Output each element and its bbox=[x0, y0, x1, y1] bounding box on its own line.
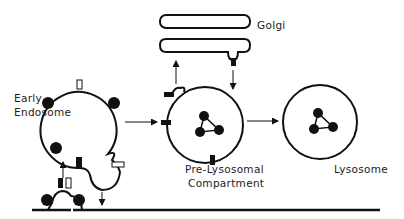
early-endosome bbox=[41, 80, 124, 190]
label-golgi: Golgi bbox=[257, 19, 286, 31]
lysosome bbox=[283, 85, 357, 159]
label-prelysosomal: Pre-Lysosomal bbox=[185, 163, 264, 175]
endocytic-pathway-diagram: Early Endosome Golgi Pre-Lysosomal Compa… bbox=[0, 0, 404, 219]
label-compartment: Compartment bbox=[188, 177, 264, 189]
label-lysosome: Lysosome bbox=[334, 163, 388, 175]
label-early: Early bbox=[14, 92, 42, 104]
prelysosomal-compartment bbox=[161, 87, 243, 165]
label-endosome: Endosome bbox=[14, 106, 71, 118]
golgi bbox=[160, 15, 250, 66]
